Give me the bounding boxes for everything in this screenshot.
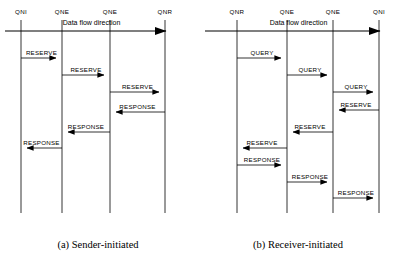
- figure-container: QNIQNEQNEQNR RESERVERESERVERESERVERESPON…: [0, 0, 397, 265]
- message-label-query-1: QUERY: [298, 66, 321, 73]
- lifeline-label-qne-2: QNE: [103, 8, 117, 15]
- lifeline-label-qne-1: QNE: [280, 8, 294, 15]
- lifeline-label-qni-0: QNI: [15, 8, 27, 15]
- caption-sender-initiated: (a) Sender-initiated: [57, 239, 138, 250]
- message-label-response-7: RESPONSE: [292, 173, 328, 180]
- message-label-reserve-3: RESERVE: [340, 101, 371, 108]
- message-label-query-2: QUERY: [344, 83, 367, 90]
- message-label-response-8: RESPONSE: [338, 189, 374, 196]
- message-label-query-0: QUERY: [250, 49, 273, 56]
- message-label-reserve-4: RESERVE: [294, 123, 325, 130]
- message-label-response-5: RESPONSE: [23, 139, 59, 146]
- lifeline-label-qni-3: QNI: [373, 8, 385, 15]
- message-label-reserve-5: RESERVE: [246, 139, 277, 146]
- panel-receiver-initiated: QNRQNEQNEQNI QUERYQUERYQUERYRESERVERESER…: [200, 0, 397, 265]
- data-flow-label-b: Data flow direction: [270, 19, 328, 26]
- message-label-reserve-1: RESERVE: [70, 66, 101, 73]
- message-label-response-3: RESPONSE: [119, 103, 155, 110]
- message-label-response-4: RESPONSE: [68, 123, 104, 130]
- lifeline-label-qnr-0: QNR: [230, 8, 245, 15]
- lifeline-label-qnr-3: QNR: [158, 8, 173, 15]
- sequence-diagram-a: [0, 0, 197, 220]
- message-label-response-6: RESPONSE: [244, 156, 280, 163]
- caption-receiver-initiated: (b) Receiver-initiated: [253, 239, 343, 250]
- sequence-diagram-b: [200, 0, 397, 220]
- lifeline-label-qne-1: QNE: [55, 8, 69, 15]
- panel-sender-initiated: QNIQNEQNEQNR RESERVERESERVERESERVERESPON…: [0, 0, 197, 265]
- data-flow-label-a: Data flow direction: [63, 19, 121, 26]
- lifeline-label-qne-2: QNE: [326, 8, 340, 15]
- message-label-reserve-2: RESERVE: [122, 83, 153, 90]
- message-label-reserve-0: RESERVE: [26, 49, 57, 56]
